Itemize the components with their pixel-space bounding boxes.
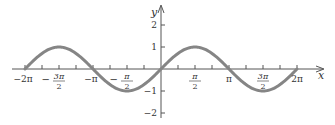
fraction-numerator: 3π: [258, 72, 269, 81]
sine-chart: −2π−3π2−π−π2π2π3π22π−2−112 x y: [0, 0, 335, 125]
fraction-denominator: 2: [192, 82, 197, 91]
fraction-numerator: π: [191, 72, 198, 81]
x-tick-label: 2π: [291, 74, 303, 84]
fraction-denominator: 2: [56, 82, 61, 91]
y-axis-label: y: [150, 6, 158, 19]
y-tick-label: 2: [151, 20, 157, 30]
x-tick-label: π2: [189, 72, 201, 91]
x-tick-label: π: [226, 74, 232, 84]
x-tick-text: −π: [84, 74, 98, 84]
fraction-numerator: π: [123, 72, 130, 81]
x-tick-label: −3π2: [42, 72, 65, 91]
minus-sign: −: [42, 74, 50, 85]
y-tick-label: −2: [144, 108, 157, 118]
y-tick-label: 1: [151, 42, 157, 52]
chart-canvas: −2π−3π2−π−π2π2π3π22π−2−112 x y: [0, 0, 335, 125]
x-tick-label: −π: [84, 74, 98, 84]
x-axis-label: x: [318, 69, 325, 82]
y-tick-label: −1: [144, 86, 157, 96]
fraction-denominator: 2: [260, 82, 265, 91]
fraction-denominator: 2: [124, 82, 129, 91]
x-tick-label: −2π: [13, 74, 32, 84]
fraction-numerator: 3π: [54, 72, 65, 81]
x-tick-text: π: [226, 74, 232, 84]
minus-sign: −: [110, 74, 118, 85]
x-tick-label: 3π2: [257, 72, 269, 91]
x-tick-text: 2π: [291, 74, 303, 84]
x-tick-text: −2π: [13, 74, 32, 84]
